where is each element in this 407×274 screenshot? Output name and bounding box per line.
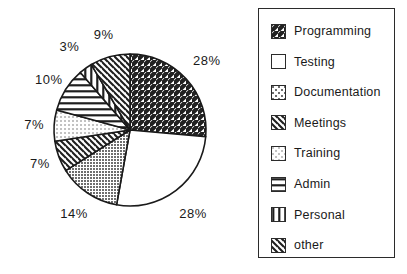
legend-item[interactable]: Admin [271,176,330,192]
legend-item[interactable]: Meetings [271,115,346,131]
legend-swatch-horizontal-lines [271,177,286,192]
legend-item[interactable]: Personal [271,207,345,223]
legend-item-label: Documentation [294,85,381,99]
legend-item-label: Admin [294,177,330,191]
legend-item[interactable]: Testing [271,54,335,70]
pie-slice-percentage-label: 3% [59,38,79,53]
legend-item-label: Programming [294,24,371,38]
legend-item-label: Training [294,146,340,160]
pie-slice-percentage-label: 10% [35,71,63,86]
legend-item-list: ProgrammingTestingDocumentationMeetingsT… [259,9,394,257]
legend-item[interactable]: Programming [271,23,371,39]
legend-item[interactable]: Documentation [271,84,381,100]
pie-slice-group [54,54,206,206]
chart-legend: ProgrammingTestingDocumentationMeetingsT… [258,8,395,258]
legend-swatch-light-dotted [271,146,286,161]
legend-item-label: Meetings [294,116,346,130]
pie-slice-percentage-label: 7% [30,156,50,171]
legend-item-label: Personal [294,208,345,222]
legend-swatch-dark-dotted [271,85,286,100]
legend-swatch-backward-diagonal-hatch [271,238,286,253]
legend-item-label: Testing [294,55,335,69]
legend-item[interactable]: Training [271,145,340,161]
pie-slice-percentage-label: 28% [179,205,207,220]
legend-swatch-forward-diagonal-hatch [271,24,286,39]
pie-chart-figure: 28%28%14%7%7%10%3%9% ProgrammingTestingD… [0,0,407,274]
pie-slice-percentage-label: 7% [24,117,44,132]
pie-slice-percentage-label: 28% [193,52,221,67]
pie-slice [117,130,206,206]
legend-swatch-backward-diagonal-hatch [271,115,286,130]
legend-item[interactable]: other [271,237,324,253]
legend-item-label: other [294,238,324,252]
legend-swatch-solid-white [271,54,286,69]
legend-swatch-vertical-lines [271,207,286,222]
pie-slice-percentage-label: 9% [94,26,114,41]
pie-slice-percentage-label: 14% [60,205,88,220]
